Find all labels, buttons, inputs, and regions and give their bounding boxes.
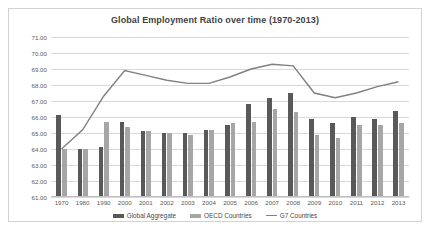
legend-label-global-aggregate: Global Aggregate xyxy=(127,212,176,219)
bar xyxy=(330,123,335,197)
y-axis-tick-label: 62.00 xyxy=(32,178,47,185)
bar xyxy=(188,135,193,197)
legend-item-oecd-countries: OECD Countries xyxy=(190,212,252,219)
bar xyxy=(351,117,356,197)
legend-item-g7-countries: G7 Countries xyxy=(266,212,318,219)
x-axis-tick-label: 2005 xyxy=(220,199,241,206)
x-axis-tick-label: 2002 xyxy=(156,199,177,206)
bar xyxy=(141,131,146,197)
bar xyxy=(83,149,88,197)
bar-group xyxy=(241,37,262,197)
bar-group xyxy=(93,37,114,197)
y-axis-tick-label: 64.00 xyxy=(32,146,47,153)
bar xyxy=(357,125,362,197)
bar-series-group xyxy=(51,37,409,197)
x-axis-tick-label: 2008 xyxy=(283,199,304,206)
x-axis-tick-label: 2009 xyxy=(304,199,325,206)
bar xyxy=(309,119,314,197)
bar-group xyxy=(283,37,304,197)
bar-group xyxy=(72,37,93,197)
legend-swatch-oecd-countries xyxy=(190,214,201,218)
bar xyxy=(288,93,293,197)
bar xyxy=(183,133,188,197)
legend-item-global-aggregate: Global Aggregate xyxy=(113,212,176,219)
bar-group xyxy=(262,37,283,197)
x-axis-tick-label: 2001 xyxy=(135,199,156,206)
x-axis-line xyxy=(51,196,409,197)
bar xyxy=(231,123,236,197)
chart-title: Global Employment Ratio over time (1970-… xyxy=(9,15,421,25)
bar-group xyxy=(177,37,198,197)
y-axis-tick-label: 61.00 xyxy=(32,194,47,201)
bar xyxy=(125,127,130,197)
bar xyxy=(56,115,61,197)
bar xyxy=(209,130,214,197)
bar xyxy=(315,135,320,197)
legend-swatch-global-aggregate xyxy=(113,214,124,218)
bar-group xyxy=(367,37,388,197)
x-axis-tick-label: 2004 xyxy=(198,199,219,206)
bar-group xyxy=(304,37,325,197)
bar-group xyxy=(135,37,156,197)
bar-group xyxy=(346,37,367,197)
legend-label-oecd-countries: OECD Countries xyxy=(204,212,252,219)
bar xyxy=(273,109,278,197)
bar xyxy=(167,133,172,197)
y-axis-tick-label: 66.00 xyxy=(32,114,47,121)
x-axis-tick-label: 1970 xyxy=(51,199,72,206)
bar xyxy=(336,138,341,197)
bar xyxy=(78,149,83,197)
bar xyxy=(104,122,109,197)
y-axis-tick-label: 71.00 xyxy=(32,34,47,41)
bar-group xyxy=(388,37,409,197)
y-axis-tick-label: 69.00 xyxy=(32,66,47,73)
y-axis-tick-label: 63.00 xyxy=(32,162,47,169)
bar xyxy=(120,122,125,197)
bar xyxy=(294,112,299,197)
bar xyxy=(372,119,377,197)
legend-label-g7-countries: G7 Countries xyxy=(280,212,318,219)
x-axis-labels: 1970198019902000200120022003200420052006… xyxy=(51,199,409,206)
bar-group xyxy=(198,37,219,197)
y-axis-tick-label: 67.00 xyxy=(32,98,47,105)
plot-area: 71.0070.0069.0068.0067.0066.0065.0064.00… xyxy=(51,37,409,197)
x-axis-tick-label: 2010 xyxy=(325,199,346,206)
x-axis-tick-label: 1990 xyxy=(93,199,114,206)
bar xyxy=(204,130,209,197)
bar xyxy=(393,111,398,197)
bar-group xyxy=(114,37,135,197)
bar xyxy=(378,125,383,197)
chart-container: Global Employment Ratio over time (1970-… xyxy=(8,8,422,222)
x-axis-tick-label: 2007 xyxy=(262,199,283,206)
bar-group xyxy=(325,37,346,197)
x-axis-tick-label: 2006 xyxy=(241,199,262,206)
bar-group xyxy=(51,37,72,197)
x-axis-tick-label: 2012 xyxy=(367,199,388,206)
bar xyxy=(162,133,167,197)
x-axis-tick-label: 1980 xyxy=(72,199,93,206)
x-axis-tick-label: 2003 xyxy=(177,199,198,206)
bar-group xyxy=(156,37,177,197)
x-axis-tick-label: 2000 xyxy=(114,199,135,206)
bar xyxy=(246,104,251,197)
bar-group xyxy=(220,37,241,197)
y-axis-tick-label: 65.00 xyxy=(32,130,47,137)
y-axis-tick-label: 70.00 xyxy=(32,50,47,57)
bar xyxy=(252,122,257,197)
bar xyxy=(225,125,230,197)
bar xyxy=(146,131,151,197)
bar xyxy=(62,149,67,197)
chart-legend: Global Aggregate OECD Countries G7 Count… xyxy=(9,212,421,219)
bar xyxy=(99,147,104,197)
x-axis-tick-label: 2011 xyxy=(346,199,367,206)
gridline: 61.00 xyxy=(51,197,409,198)
y-axis-tick-label: 68.00 xyxy=(32,82,47,89)
bar xyxy=(399,123,404,197)
x-axis-tick-label: 2013 xyxy=(388,199,409,206)
legend-swatch-g7-countries xyxy=(266,215,277,217)
bar xyxy=(267,98,272,197)
